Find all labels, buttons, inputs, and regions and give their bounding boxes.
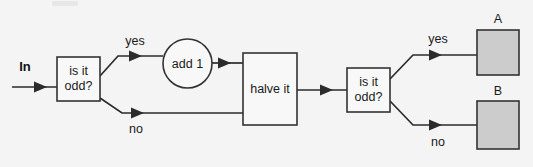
- edge-decision2-no: [390, 101, 477, 131]
- edge-decision1-no: [100, 98, 243, 119]
- edge-add1-to-halve: [212, 58, 243, 69]
- node-decision2-line2: odd?: [355, 90, 383, 104]
- output-a-caption: A: [494, 12, 503, 26]
- flowchart-svg: is it odd? add 1 halve it is it odd? In: [0, 0, 533, 167]
- edge-in-to-decision1: [12, 82, 57, 93]
- node-decision2-line1: is it: [359, 75, 378, 89]
- input-label: In: [19, 59, 31, 74]
- node-halve-label: halve it: [250, 82, 290, 96]
- node-decision-is-it-odd-1[interactable]: is it odd?: [57, 57, 100, 101]
- output-b-caption: B: [494, 84, 502, 98]
- edge-halve-to-decision2: [297, 85, 347, 96]
- node-decision1-line1: is it: [69, 64, 88, 78]
- edge-decision2-yes: [390, 50, 477, 80]
- edge-label-yes-2: yes: [428, 32, 447, 46]
- edge-label-no-1: no: [129, 122, 143, 136]
- node-output-b[interactable]: [477, 101, 519, 149]
- flowchart-canvas: is it odd? add 1 halve it is it odd? In: [0, 0, 533, 167]
- node-output-a[interactable]: [477, 30, 519, 75]
- node-process-halve-it[interactable]: halve it: [243, 53, 297, 125]
- edge-decision1-yes: [100, 51, 163, 77]
- node-process-add-1[interactable]: add 1: [163, 39, 212, 88]
- edge-label-yes-1: yes: [125, 34, 144, 48]
- node-decision-is-it-odd-2[interactable]: is it odd?: [347, 68, 390, 112]
- edge-label-no-2: no: [431, 135, 445, 149]
- node-decision1-line2: odd?: [65, 79, 93, 93]
- node-add1-label: add 1: [172, 57, 203, 71]
